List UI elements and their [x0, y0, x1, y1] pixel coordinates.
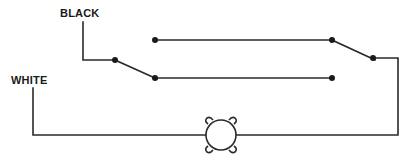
switch-1-bottom-terminal	[152, 75, 158, 81]
switch-1-top-terminal	[152, 37, 158, 43]
lamp-icon	[206, 117, 237, 152]
white-neutral-wire	[33, 88, 206, 135]
switch-2-common-terminal	[370, 55, 376, 61]
wiring-diagram	[0, 0, 407, 164]
switch-2-bottom-terminal	[329, 75, 335, 81]
switch-2-arm	[332, 40, 375, 60]
terminal-dots	[112, 37, 376, 81]
switch-to-lamp-wire	[236, 58, 398, 135]
black-feed-wire	[83, 22, 115, 60]
switch-2-top-terminal	[329, 37, 335, 43]
switch-1-arm	[115, 60, 157, 79]
switch-1-common-terminal	[112, 57, 118, 63]
